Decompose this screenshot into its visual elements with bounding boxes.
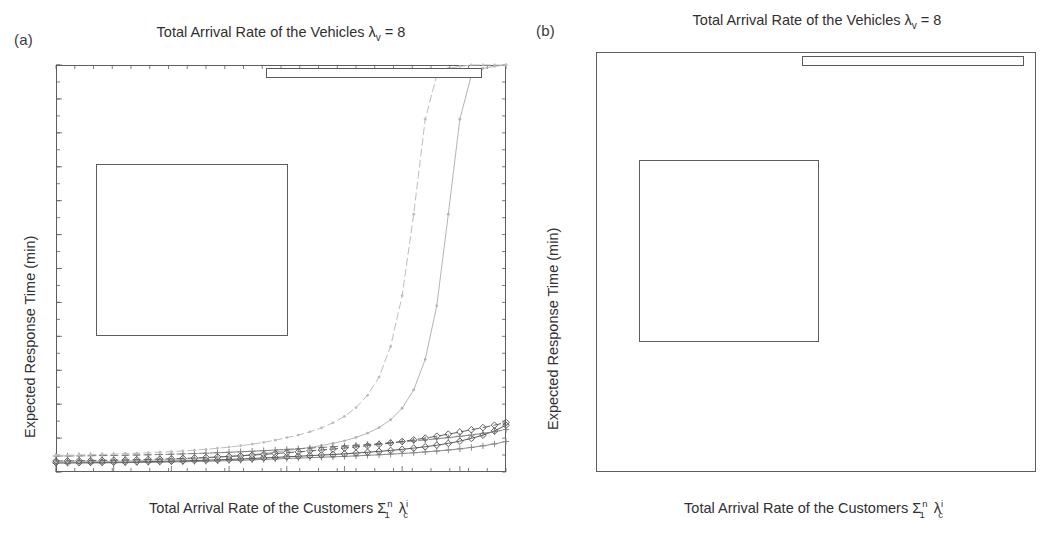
legend-b [802,56,1024,66]
figure-root: (a) Total Arrival Rate of the Vehicles λ… [0,0,1054,545]
panel-b: (b) Total Arrival Rate of the Vehicles λ… [527,0,1054,545]
inset-svg-b [527,0,1054,545]
legend-a [266,68,482,78]
panel-a: (a) Total Arrival Rate of the Vehicles λ… [0,0,527,545]
inset-svg-a [0,0,527,545]
